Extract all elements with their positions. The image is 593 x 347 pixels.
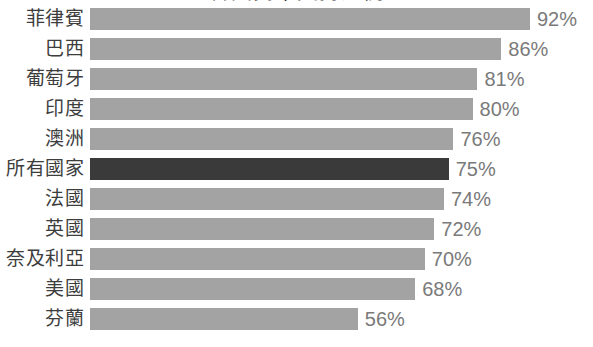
bar-row: 芬蘭56% (0, 308, 593, 338)
bar-fill (90, 188, 444, 210)
bar-category-label: 芬蘭 (0, 308, 84, 330)
bar-track: 76% (90, 128, 593, 150)
bar-category-label: 澳洲 (0, 128, 84, 150)
bar-row: 菲律賓92% (0, 8, 593, 38)
bar-category-label: 所有國家 (0, 158, 84, 180)
bar-fill (90, 38, 501, 60)
bar-track: 92% (90, 8, 593, 30)
bar-category-label: 法國 (0, 188, 84, 210)
bar-row: 所有國家75% (0, 158, 593, 188)
bar-track: 68% (90, 278, 593, 300)
bar-fill (90, 218, 434, 240)
bar-fill-highlight (90, 158, 449, 180)
bar-row: 印度80% (0, 98, 593, 128)
bar-category-label: 印度 (0, 98, 84, 120)
bar-track: 86% (90, 38, 593, 60)
bar-category-label: 英國 (0, 218, 84, 240)
bar-row: 巴西86% (0, 38, 593, 68)
bar-value-label: 68% (415, 278, 462, 300)
bar-category-label: 美國 (0, 278, 84, 300)
bar-value-label: 80% (473, 98, 520, 120)
bar-value-label: 72% (434, 218, 481, 240)
bar-fill (90, 98, 473, 120)
bar-row: 美國68% (0, 278, 593, 308)
bar-value-label: 86% (501, 38, 548, 60)
bar-row: 葡萄牙81% (0, 68, 593, 98)
bar-value-label: 75% (449, 158, 496, 180)
bar-track: 56% (90, 308, 593, 330)
bar-category-label: 巴西 (0, 38, 84, 60)
bar-fill (90, 308, 358, 330)
bar-value-label: 81% (477, 68, 524, 90)
bar-row: 奈及利亞70% (0, 248, 593, 278)
bar-track: 81% (90, 68, 593, 90)
bar-value-label: 56% (358, 308, 405, 330)
bar-row: 澳洲76% (0, 128, 593, 158)
bar-fill (90, 278, 415, 300)
chart-plot-area: 菲律賓92%巴西86%葡萄牙81%印度80%澳洲76%所有國家75%法國74%英… (0, 8, 593, 338)
bar-value-label: 76% (453, 128, 500, 150)
bar-fill (90, 128, 453, 150)
bar-value-label: 70% (425, 248, 472, 270)
bar-row: 英國72% (0, 218, 593, 248)
bar-track: 70% (90, 248, 593, 270)
bar-value-label: 92% (530, 8, 577, 30)
bar-fill (90, 248, 425, 270)
bar-chart-figure: 各國民眾支持比例 菲律賓92%巴西86%葡萄牙81%印度80%澳洲76%所有國家… (0, 0, 593, 347)
bar-track: 75% (90, 158, 593, 180)
bar-category-label: 奈及利亞 (0, 248, 84, 270)
chart-title: 各國民眾支持比例 (0, 0, 593, 4)
bar-fill (90, 8, 530, 30)
bar-fill (90, 68, 477, 90)
bar-value-label: 74% (444, 188, 491, 210)
bar-row: 法國74% (0, 188, 593, 218)
bar-category-label: 葡萄牙 (0, 68, 84, 90)
bar-track: 74% (90, 188, 593, 210)
bar-track: 80% (90, 98, 593, 120)
bar-track: 72% (90, 218, 593, 240)
bar-category-label: 菲律賓 (0, 8, 84, 30)
